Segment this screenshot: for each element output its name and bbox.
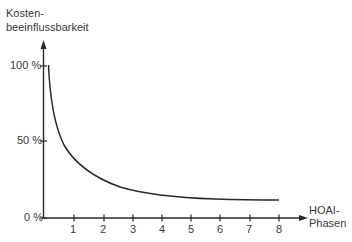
y-axis-arrow-icon xyxy=(41,40,47,49)
cost-influence-curve xyxy=(49,65,280,200)
x-axis-arrow-icon xyxy=(299,215,308,221)
chart-plot xyxy=(0,0,352,242)
